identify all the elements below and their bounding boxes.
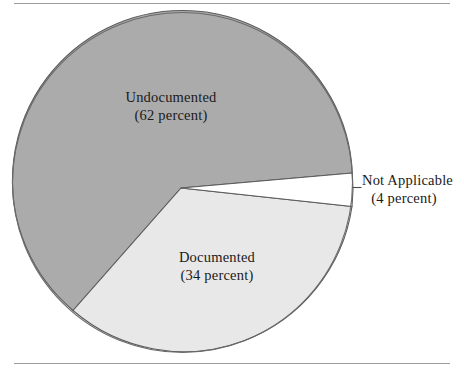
slice-label-undocumented: Undocumented (62 percent) (106, 89, 236, 124)
slice-label-undocumented-name: Undocumented (106, 89, 236, 107)
slice-label-undocumented-value: (62 percent) (106, 107, 236, 125)
slice-label-documented: Documented (34 percent) (152, 249, 282, 284)
slice-label-documented-name: Documented (152, 249, 282, 267)
figure-bottom-rule (14, 363, 450, 364)
slice-label-not-applicable-name: Not Applicable (362, 172, 462, 190)
slice-label-not-applicable: Not Applicable (4 percent) (362, 172, 462, 207)
slice-label-documented-value: (34 percent) (152, 267, 282, 285)
slice-label-not-applicable-value: (4 percent) (362, 190, 462, 208)
figure-container: Undocumented (62 percent) Documented (34… (0, 0, 464, 375)
